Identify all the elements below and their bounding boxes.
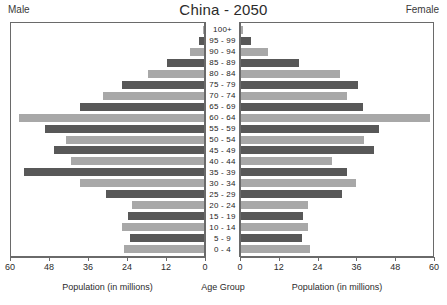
bar-row (11, 232, 204, 243)
axis-tick (356, 257, 357, 261)
bar-row (11, 134, 204, 145)
axis-tick-label: 24 (313, 262, 323, 272)
age-group-label: 85 - 89 (206, 57, 239, 68)
female-panel (240, 22, 434, 257)
bar-female (241, 146, 374, 154)
bar-row (11, 25, 204, 36)
bar-female (241, 37, 251, 45)
chart-title: China - 2050 (0, 1, 447, 18)
bar-row (241, 112, 433, 123)
age-group-label: 0 - 4 (206, 244, 239, 255)
bar-row (241, 156, 433, 167)
bar-row (11, 69, 204, 80)
age-group-label: 45 - 49 (206, 145, 239, 156)
age-group-label: 35 - 39 (206, 167, 239, 178)
axis-tick (434, 257, 435, 261)
bar-row (241, 178, 433, 189)
bar-row (11, 47, 204, 58)
bar-female (241, 70, 340, 78)
axis-tick-label: 48 (44, 262, 54, 272)
bar-row (241, 145, 433, 156)
chart-plot-area: 100+95 - 9990 - 9485 - 8980 - 8475 - 797… (0, 22, 447, 257)
bar-female (241, 223, 308, 231)
age-group-label: 60 - 64 (206, 112, 239, 123)
bar-row (241, 69, 433, 80)
age-group-label: 25 - 29 (206, 189, 239, 200)
bar-male (19, 114, 204, 122)
axis-tick-label: 60 (5, 262, 15, 272)
bar-row (11, 123, 204, 134)
bar-male (203, 26, 204, 34)
bar-female (241, 212, 303, 220)
bar-female (241, 234, 302, 242)
bar-female (241, 114, 430, 122)
axis-line (10, 257, 205, 258)
bar-row (241, 200, 433, 211)
age-group-label: 70 - 74 (206, 90, 239, 101)
axis-tick-label: 60 (429, 262, 439, 272)
bar-row (11, 156, 204, 167)
age-group-label: 50 - 54 (206, 134, 239, 145)
bar-male (103, 92, 204, 100)
age-group-label: 80 - 84 (206, 68, 239, 79)
bar-row (11, 90, 204, 101)
age-group-axis: 100+95 - 9990 - 9485 - 8980 - 8475 - 797… (205, 22, 240, 257)
age-group-label: 75 - 79 (206, 79, 239, 90)
bar-male (132, 201, 204, 209)
age-group-label: 20 - 24 (206, 200, 239, 211)
bar-row (11, 221, 204, 232)
axis-tick (205, 257, 206, 261)
bar-row (11, 243, 204, 254)
axis-tick (240, 257, 241, 261)
male-value-axis: 60483624120 (10, 257, 205, 273)
bar-row (241, 167, 433, 178)
bar-row (241, 210, 433, 221)
axis-tick-label: 12 (274, 262, 284, 272)
bar-female (241, 245, 310, 253)
axis-tick (49, 257, 50, 261)
bar-row (241, 232, 433, 243)
bar-male (167, 59, 204, 67)
axis-tick-label: 24 (122, 262, 132, 272)
axis-tick-label: 36 (351, 262, 361, 272)
age-group-label: 55 - 59 (206, 123, 239, 134)
chart-header: Male China - 2050 Female (0, 0, 447, 22)
axis-tick-label: 0 (202, 262, 207, 272)
bar-female (241, 92, 347, 100)
bar-row (11, 178, 204, 189)
bar-female (241, 103, 363, 111)
bar-male (54, 146, 204, 154)
bar-row (11, 112, 204, 123)
axis-tick (166, 257, 167, 261)
bar-male (199, 37, 204, 45)
bar-row (11, 200, 204, 211)
axis-tick-label: 48 (390, 262, 400, 272)
age-group-label: 90 - 94 (206, 46, 239, 57)
bar-female (241, 190, 342, 198)
bar-male (106, 190, 204, 198)
axis-tick (127, 257, 128, 261)
age-group-label: 95 - 99 (206, 35, 239, 46)
bar-row (241, 243, 433, 254)
bar-female (241, 81, 358, 89)
axis-tick (395, 257, 396, 261)
bar-male (122, 223, 204, 231)
bar-male (130, 234, 204, 242)
bar-male (124, 245, 204, 253)
bar-row (241, 47, 433, 58)
bar-male (190, 48, 204, 56)
age-group-label: 65 - 69 (206, 101, 239, 112)
bar-male (122, 81, 204, 89)
age-group-label: 10 - 14 (206, 222, 239, 233)
bar-row (241, 80, 433, 91)
bar-male (45, 125, 204, 133)
bar-row (241, 189, 433, 200)
bar-male (71, 157, 204, 165)
bar-row (11, 58, 204, 69)
bar-female (241, 157, 332, 165)
bar-row (11, 167, 204, 178)
bar-row (241, 58, 433, 69)
right-axis-caption: Population (in millions) (240, 282, 434, 292)
bar-row (241, 123, 433, 134)
bar-row (11, 189, 204, 200)
